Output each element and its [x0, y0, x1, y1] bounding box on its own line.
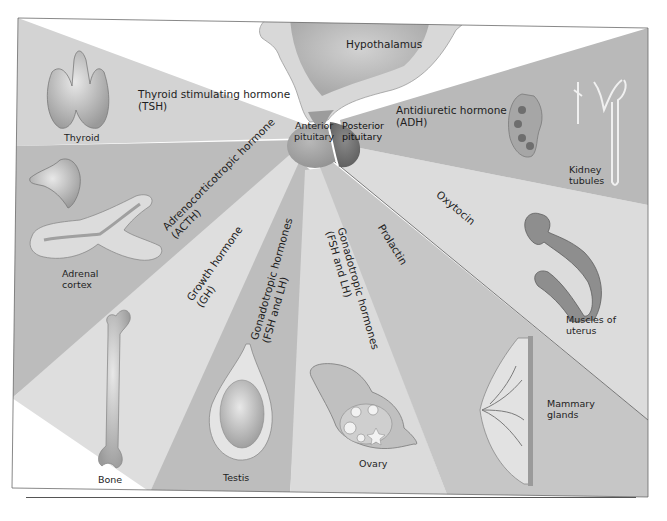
- kidney-line-1: Kidney: [569, 164, 604, 175]
- adh-line-2: (ADH): [396, 116, 507, 128]
- adrenal-label: Adrenal cortex: [62, 268, 98, 290]
- posterior-pituitary-label: Posterior pituitary: [342, 120, 384, 142]
- adrenal-line-2: cortex: [62, 279, 98, 290]
- anterior-line-1: Anterior: [294, 120, 334, 131]
- testis-label: Testis: [223, 472, 249, 483]
- tsh-line-2: (TSH): [138, 100, 290, 112]
- hypothalamus-label: Hypothalamus: [346, 38, 422, 50]
- posterior-line-2: pituitary: [342, 131, 384, 142]
- uterus-label: Muscles of uterus: [566, 314, 616, 336]
- anterior-line-2: pituitary: [294, 131, 334, 142]
- posterior-line-1: Posterior: [342, 120, 384, 131]
- bone-label: Bone: [98, 474, 122, 485]
- mammary-line-1: Mammary: [547, 398, 595, 409]
- tsh-label: Thyroid stimulating hormone (TSH): [138, 88, 290, 112]
- adrenal-line-1: Adrenal: [62, 268, 98, 279]
- tsh-line-1: Thyroid stimulating hormone: [138, 88, 290, 100]
- mammary-label: Mammary glands: [547, 398, 595, 420]
- kidney-label: Kidney tubules: [569, 164, 604, 186]
- adh-label: Antidiuretic hormone (ADH): [396, 104, 507, 128]
- anterior-pituitary-label: Anterior pituitary: [294, 120, 334, 142]
- thyroid-label: Thyroid: [64, 132, 100, 143]
- kidney-line-2: tubules: [569, 175, 604, 186]
- uterus-line-1: Muscles of: [566, 314, 616, 325]
- adh-line-1: Antidiuretic hormone: [396, 104, 507, 116]
- pituitary-diagram: Hypothalamus Anterior pituitary Posterio…: [0, 0, 667, 521]
- ovary-label: Ovary: [359, 458, 387, 469]
- bottom-rule: [26, 497, 636, 498]
- mammary-line-2: glands: [547, 409, 595, 420]
- uterus-line-2: uterus: [566, 325, 616, 336]
